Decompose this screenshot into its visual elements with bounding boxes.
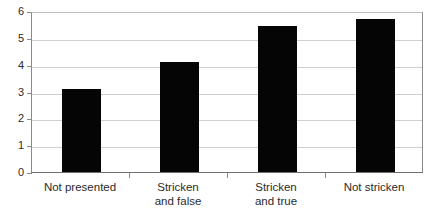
y-axis-tick-label: 4: [8, 60, 24, 71]
y-axis-tick-label: 0: [8, 167, 24, 178]
x-axis-tick-mark: [227, 173, 228, 178]
y-axis-tick-label: 3: [8, 87, 24, 98]
bar: [258, 26, 297, 172]
bar: [62, 89, 101, 172]
y-axis-tick-label: 5: [8, 33, 24, 44]
bar: [160, 62, 199, 172]
bar: [356, 19, 395, 172]
x-axis-tick-mark: [325, 173, 326, 178]
plot-area: [31, 12, 423, 173]
x-axis-category-label: Not stricken: [314, 180, 434, 194]
y-axis-tick-mark: [27, 173, 32, 174]
y-axis-tick-label: 2: [8, 113, 24, 124]
bar-chart: 0123456 Not presentedStricken and falseS…: [0, 0, 438, 213]
y-axis-tick-label: 6: [8, 6, 24, 17]
x-axis-tick-mark: [129, 173, 130, 178]
y-axis-tick-label: 1: [8, 140, 24, 151]
